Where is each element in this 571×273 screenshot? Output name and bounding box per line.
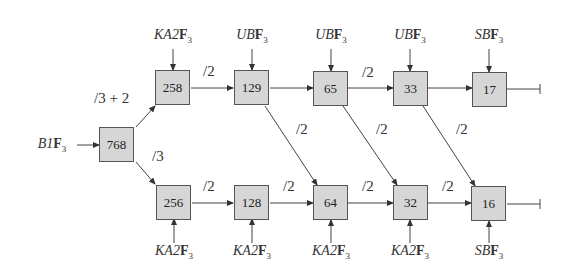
node-17: 17 — [472, 72, 507, 107]
bottom-label-5: SBF3 — [475, 243, 504, 261]
node-128: 128 — [234, 185, 269, 220]
bottom-label-3-sub: 3 — [345, 251, 350, 261]
top-label-5-field: F — [490, 27, 499, 42]
top-label-2-main: UB — [236, 27, 255, 42]
bottom-label-2-sub: 3 — [266, 251, 271, 261]
op-bot-64-32: /2 — [362, 178, 374, 195]
bottom-label-4-main: KA2 — [391, 243, 416, 258]
bottom-label-1: KA2F3 — [155, 243, 193, 261]
op-bot-32-16: /2 — [442, 178, 454, 195]
input-label-sub: 3 — [62, 144, 67, 154]
node-129: 129 — [234, 70, 269, 105]
node-258: 258 — [155, 70, 190, 105]
top-label-5-sub: 3 — [499, 35, 504, 45]
bottom-label-5-main: SB — [475, 243, 491, 258]
top-label-1: KA2F3 — [154, 27, 192, 45]
node-768: 768 — [99, 127, 134, 162]
top-label-3-field: F — [334, 27, 343, 42]
bottom-label-2: KA2F3 — [233, 243, 271, 261]
top-label-4: UBF3 — [394, 27, 426, 45]
top-label-4-field: F — [413, 27, 422, 42]
top-label-2: UBF3 — [236, 27, 268, 45]
op-upper-branch: /3 + 2 — [94, 90, 129, 107]
op-diag-33-16: /2 — [456, 121, 468, 138]
top-label-3-main: UB — [315, 27, 334, 42]
node-65: 65 — [313, 71, 348, 106]
top-label-3-sub: 3 — [342, 35, 347, 45]
top-label-1-main: KA2 — [154, 27, 179, 42]
bottom-label-1-sub: 3 — [188, 251, 193, 261]
top-label-4-sub: 3 — [421, 35, 426, 45]
op-bot-128-64: /2 — [283, 178, 295, 195]
top-label-1-sub: 3 — [187, 35, 192, 45]
top-label-3: UBF3 — [315, 27, 347, 45]
top-label-2-field: F — [255, 27, 264, 42]
top-label-2-sub: 3 — [263, 35, 268, 45]
op-top-65-33: /2 — [362, 64, 374, 81]
input-label: B1F3 — [38, 136, 67, 154]
node-32: 32 — [393, 185, 428, 220]
node-256: 256 — [156, 185, 191, 220]
top-label-4-main: UB — [394, 27, 413, 42]
node-64: 64 — [313, 185, 348, 220]
bottom-label-5-field: F — [490, 243, 499, 258]
node-16: 16 — [471, 186, 506, 221]
bottom-label-3: KA2F3 — [312, 243, 350, 261]
input-label-field: F — [53, 136, 62, 151]
bottom-label-4: KA2F3 — [391, 243, 429, 261]
bottom-label-4-sub: 3 — [424, 251, 429, 261]
op-lower-branch: /3 — [152, 148, 164, 165]
op-top-258-129: /2 — [203, 63, 215, 80]
node-33: 33 — [393, 71, 428, 106]
op-diag-129-64: /2 — [296, 121, 308, 138]
bottom-label-2-main: KA2 — [233, 243, 258, 258]
input-label-main: B1 — [38, 136, 54, 151]
op-bot-256-128: /2 — [203, 178, 215, 195]
top-label-5: SBF3 — [475, 27, 504, 45]
bottom-label-5-sub: 3 — [499, 251, 504, 261]
op-diag-65-32: /2 — [376, 121, 388, 138]
bottom-label-3-main: KA2 — [312, 243, 337, 258]
bottom-label-1-main: KA2 — [155, 243, 180, 258]
top-label-5-main: SB — [475, 27, 491, 42]
